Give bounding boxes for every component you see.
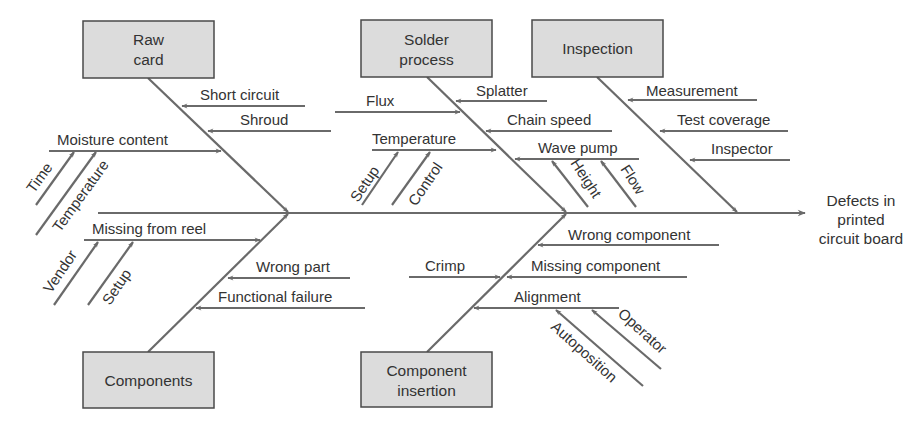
cause-wave-pump: Wave pump <box>515 139 639 159</box>
solder-process-line-2: process <box>399 51 454 68</box>
subcause-setup-components: Setup <box>88 242 134 308</box>
cause-alignment: Alignment <box>474 288 619 308</box>
svg-text:Temperature: Temperature <box>372 130 456 147</box>
svg-text:Wrong part: Wrong part <box>256 258 331 275</box>
svg-text:Wave pump: Wave pump <box>538 139 617 156</box>
cause-test-coverage: Test coverage <box>660 111 788 131</box>
svg-text:Flux: Flux <box>366 92 395 109</box>
category-box-solder-process: Solder process <box>361 20 492 77</box>
category-box-components: Components <box>83 352 214 408</box>
cause-crimp: Crimp <box>409 257 500 277</box>
svg-text:Inspector: Inspector <box>711 140 773 157</box>
cause-wrong-component: Wrong component <box>538 226 719 245</box>
svg-text:Measurement: Measurement <box>646 82 739 99</box>
effect-label: Defects in printed circuit board <box>819 192 903 247</box>
cause-chain-speed: Chain speed <box>486 111 612 131</box>
svg-text:Splatter: Splatter <box>476 82 528 99</box>
svg-text:Missing from reel: Missing from reel <box>92 220 206 237</box>
effect-line-3: circuit board <box>819 230 903 247</box>
svg-text:Height: Height <box>567 155 605 201</box>
svg-text:Moisture content: Moisture content <box>57 131 169 148</box>
raw-card-line-2: card <box>133 51 163 68</box>
svg-text:Operator: Operator <box>615 305 670 357</box>
cause-short-circuit: Short circuit <box>182 86 305 106</box>
svg-text:Test coverage: Test coverage <box>677 111 770 128</box>
svg-text:Setup: Setup <box>98 266 134 308</box>
cause-moisture-content: Moisture content <box>49 131 221 151</box>
svg-text:Crimp: Crimp <box>425 257 465 274</box>
svg-text:Chain speed: Chain speed <box>507 111 591 128</box>
cause-inspector: Inspector <box>690 140 790 160</box>
cause-wrong-part: Wrong part <box>228 258 350 278</box>
svg-text:Autoposition: Autoposition <box>548 318 621 386</box>
cause-temperature-solder: Temperature <box>372 130 496 150</box>
component-insertion-line-1: Component <box>386 362 467 379</box>
effect-line-2: printed <box>837 211 884 228</box>
cause-flux: Flux <box>335 92 460 112</box>
component-insertion-line-2: insertion <box>397 382 456 399</box>
raw-card-line-1: Raw <box>133 31 165 48</box>
svg-text:Wrong component: Wrong component <box>568 226 691 243</box>
solder-process-line-1: Solder <box>404 31 449 48</box>
svg-text:Alignment: Alignment <box>514 288 582 305</box>
category-box-inspection: Inspection <box>532 20 663 77</box>
cause-missing-component: Missing component <box>507 257 687 277</box>
cause-splatter: Splatter <box>456 82 547 101</box>
svg-text:Missing component: Missing component <box>531 257 661 274</box>
svg-text:Shroud: Shroud <box>240 111 288 128</box>
cause-shroud: Shroud <box>208 111 331 131</box>
category-box-raw-card: Raw card <box>83 21 214 78</box>
cause-missing-from-reel: Missing from reel <box>84 220 260 240</box>
bone-component-insertion <box>427 214 566 352</box>
inspection-line-1: Inspection <box>562 40 633 57</box>
cause-functional-failure: Functional failure <box>196 288 365 308</box>
fishbone-diagram: Defects in printed circuit board Raw car… <box>0 0 920 428</box>
category-box-component-insertion: Component insertion <box>361 352 492 407</box>
svg-text:Short circuit: Short circuit <box>200 86 280 103</box>
cause-measurement: Measurement <box>628 82 757 100</box>
svg-text:Time: Time <box>23 159 56 196</box>
subcause-height: Height <box>552 155 606 207</box>
subcause-flow: Flow <box>601 161 649 207</box>
effect-line-1: Defects in <box>827 192 896 209</box>
svg-text:Flow: Flow <box>617 161 649 197</box>
svg-text:Control: Control <box>404 159 445 209</box>
subcause-setup-solder: Setup <box>346 152 398 205</box>
subcause-time: Time <box>23 152 74 205</box>
components-line-1: Components <box>105 372 193 389</box>
subcause-control: Control <box>392 152 446 209</box>
subcause-vendor: Vendor <box>39 242 98 305</box>
svg-text:Functional failure: Functional failure <box>218 288 332 305</box>
svg-text:Vendor: Vendor <box>39 247 80 296</box>
